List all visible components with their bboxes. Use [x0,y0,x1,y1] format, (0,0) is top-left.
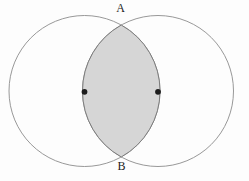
figure-canvas: A B [0,0,249,181]
label-b: B [117,159,125,173]
left-center-dot [82,89,88,95]
venn-circles-diagram: A B [0,0,249,181]
intersection-region [83,25,161,157]
label-a: A [116,1,125,15]
right-center-dot [155,89,161,95]
